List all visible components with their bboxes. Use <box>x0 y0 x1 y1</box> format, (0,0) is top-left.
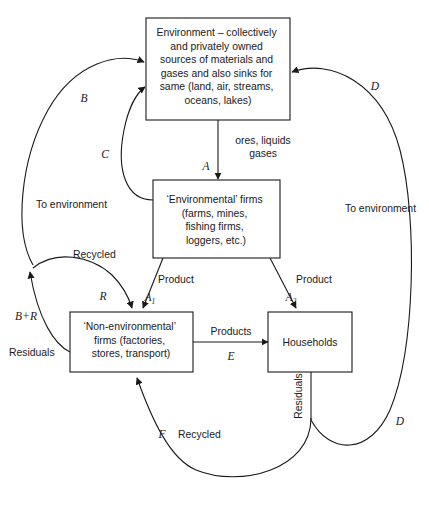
label-gases: gases <box>249 148 277 159</box>
materials-balance-diagram: Environment – collectively and privately… <box>0 0 429 511</box>
symbol-b-plus-r: B+R <box>15 310 37 322</box>
box-non-environmental-firms-label: ‘Non-environmental’ firms (factories, st… <box>84 321 179 359</box>
label-residuals-left: Residuals <box>9 347 55 358</box>
label-residuals-right: Residuals <box>293 373 304 419</box>
flow-r-recycled <box>33 257 132 308</box>
symbol-f: F <box>157 428 166 440</box>
box-households-label: Households <box>283 337 338 348</box>
symbol-r: R <box>98 290 106 302</box>
label-to-environment-right: To environment <box>345 203 416 214</box>
label-product-left: Product <box>158 274 194 285</box>
label-product-right: Product <box>296 274 332 285</box>
box-environmental-firms <box>153 180 280 258</box>
symbol-d-top: D <box>370 80 380 92</box>
label-products-middle: Products <box>210 326 251 337</box>
label-recycled-left: Recycled <box>73 249 116 260</box>
symbol-a: A <box>201 160 210 172</box>
symbol-b: B <box>80 92 87 104</box>
symbol-a1: A1 <box>144 291 156 306</box>
label-ores-liquids: ores, liquids <box>235 135 290 146</box>
flow-b-to-environment <box>22 58 144 265</box>
symbol-a2: A2 <box>285 291 297 306</box>
symbol-d-bottom: D <box>395 415 405 427</box>
diagram-canvas: Environment – collectively and privately… <box>0 0 429 511</box>
flow-d-to-environment <box>292 68 411 445</box>
label-to-environment-left: To environment <box>36 199 107 210</box>
label-recycled-bottom: Recycled <box>178 429 221 440</box>
symbol-c: C <box>101 148 109 160</box>
symbol-e: E <box>226 350 234 362</box>
